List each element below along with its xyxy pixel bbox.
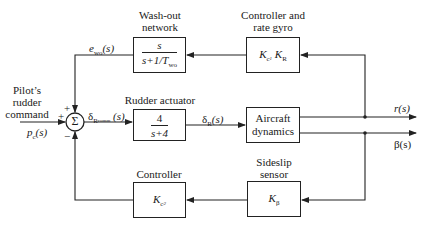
summing-junction: Σ bbox=[68, 115, 82, 127]
sign-plus-left: + bbox=[58, 110, 64, 122]
rudder-command-label: δRcomm (s) bbox=[88, 110, 125, 127]
actuator-block: 4 s+4 bbox=[133, 109, 186, 141]
sideslip-output-label: β(s) bbox=[394, 138, 411, 150]
input-label: Pilot’s rudder command bbox=[5, 84, 49, 120]
rate-gyro-block: Kc1 KR bbox=[246, 37, 300, 73]
sign-minus-bottom: − bbox=[64, 130, 70, 142]
sign-plus-top: + bbox=[64, 102, 70, 114]
input-signal-label: pc(s) bbox=[27, 126, 47, 143]
controller-block: Kc2 bbox=[133, 182, 186, 218]
rate-gyro-title: Controller and rate gyro bbox=[237, 9, 309, 33]
washout-output-label: ewo(s) bbox=[89, 42, 114, 59]
sideslip-sensor-block: Kβ bbox=[247, 181, 301, 217]
rudder-deflection-label: δR(s) bbox=[202, 113, 223, 130]
yaw-rate-output-label: r(s) bbox=[394, 102, 410, 114]
aircraft-dynamics-block: Aircraft dynamics bbox=[246, 107, 300, 143]
controller-title: Controller bbox=[130, 168, 188, 180]
washout-title: Wash-out network bbox=[134, 9, 186, 33]
washout-block: s s+1/Two bbox=[133, 37, 186, 73]
sideslip-sensor-title: Sideslip sensor bbox=[247, 156, 301, 180]
actuator-title: Rudder actuator bbox=[124, 94, 196, 106]
